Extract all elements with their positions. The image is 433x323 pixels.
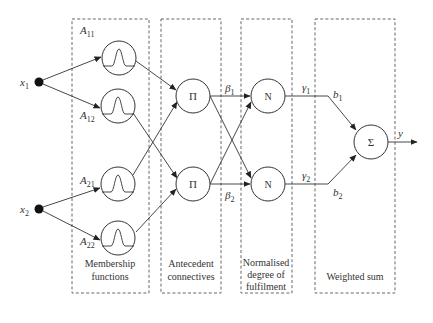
normalised-layer-box [241,19,292,293]
input-node-x2 [35,205,44,214]
beta2-label: β2 [224,189,234,204]
svg-text:connectives: connectives [167,271,214,282]
sum-node: Σ [354,125,388,159]
mf-node-a11 [102,41,136,75]
weight-b1-label: b1 [333,88,343,103]
svg-text:N: N [264,91,271,102]
beta1-label: β1 [224,82,234,97]
edge-n2-sum [285,155,356,184]
svg-text:Π: Π [189,178,197,190]
gamma1-label: γ1 [302,81,310,96]
mf-node-a22 [101,221,135,255]
mf-label-a21: A21 [79,174,95,189]
edge-p2-n1 [210,102,251,184]
edge-a12-p2 [133,113,177,178]
edge-a22-p2 [136,189,176,232]
svg-text:degree of: degree of [247,269,285,280]
svg-text:Normalised: Normalised [243,257,290,268]
edge-n1-sum [285,96,356,130]
edge-a21-p1 [133,102,177,175]
mf-node-a12 [101,89,135,123]
caption-antecedent: Antecedent connectives [167,258,214,282]
svg-text:Antecedent: Antecedent [168,258,214,269]
svg-text:functions: functions [91,271,128,282]
svg-text:fulfilment: fulfilment [246,281,286,292]
product-node-1: Π [176,79,210,113]
input-node-x1 [35,78,44,87]
input-label-x1: x1 [19,76,29,91]
edge-p1-n2 [210,96,251,178]
caption-weighted-sum: Weighted sum [326,271,383,282]
caption-normalised: Normalised degree of fulfilment [243,257,290,292]
mf-label-a22: A22 [79,235,95,250]
antecedent-layer-box [161,19,221,293]
svg-text:Membership: Membership [85,258,136,269]
svg-text:Π: Π [189,90,197,102]
input-label-x2: x2 [19,203,29,218]
edge-x2-a21 [43,188,100,207]
svg-text:Σ: Σ [368,136,374,148]
svg-text:N: N [264,179,271,190]
edge-x1-a12 [43,84,100,108]
norm-node-1: N [251,79,285,113]
edge-a11-p1 [136,61,176,90]
norm-node-2: N [251,167,285,201]
output-label-y: y [397,127,403,139]
caption-membership: Membership functions [85,258,136,282]
mf-node-a21 [101,167,135,201]
edge-x2-a22 [43,211,100,240]
anfis-diagram: x1 x2 A11 A12 A21 A22 Π Π β1 β2 N N γ1 γ… [0,0,433,323]
product-node-2: Π [176,167,210,201]
svg-text:Weighted sum: Weighted sum [326,271,383,282]
mf-label-a12: A12 [79,109,95,124]
weight-b2-label: b2 [333,186,343,201]
mf-label-a11: A11 [79,24,94,39]
gamma2-label: γ2 [302,169,310,184]
